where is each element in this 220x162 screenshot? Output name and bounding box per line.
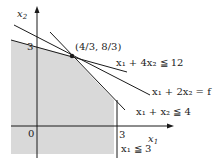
optimal-vertex-marker bbox=[70, 54, 74, 58]
constraint-label-x1-le-3: x₁ ≦ 3 bbox=[121, 143, 151, 154]
constraint-label-x1-x2-le-4: x₁ + x₂ ≦ 4 bbox=[136, 106, 191, 117]
x1-axis-arrow-icon bbox=[167, 124, 174, 129]
feasible-region bbox=[11, 40, 114, 154]
x2-axis-arrow-icon bbox=[35, 6, 40, 13]
x2-axis-label: x2 bbox=[17, 8, 28, 21]
origin-label: 0 bbox=[28, 128, 34, 139]
objective-label: x₁ + 2x₂ = f bbox=[152, 86, 212, 97]
lp-diagram: x2 x1 0 3 3 (4/3, 8/3) x₁ + 4x₂ ≦ 12 x₁ … bbox=[0, 0, 220, 162]
x1-tick-label-3: 3 bbox=[119, 129, 125, 140]
x2-tick-label-3: 3 bbox=[27, 41, 33, 52]
vertex-label: (4/3, 8/3) bbox=[75, 41, 121, 52]
constraint-label-x1-4x2-le-12: x₁ + 4x₂ ≦ 12 bbox=[116, 57, 183, 68]
